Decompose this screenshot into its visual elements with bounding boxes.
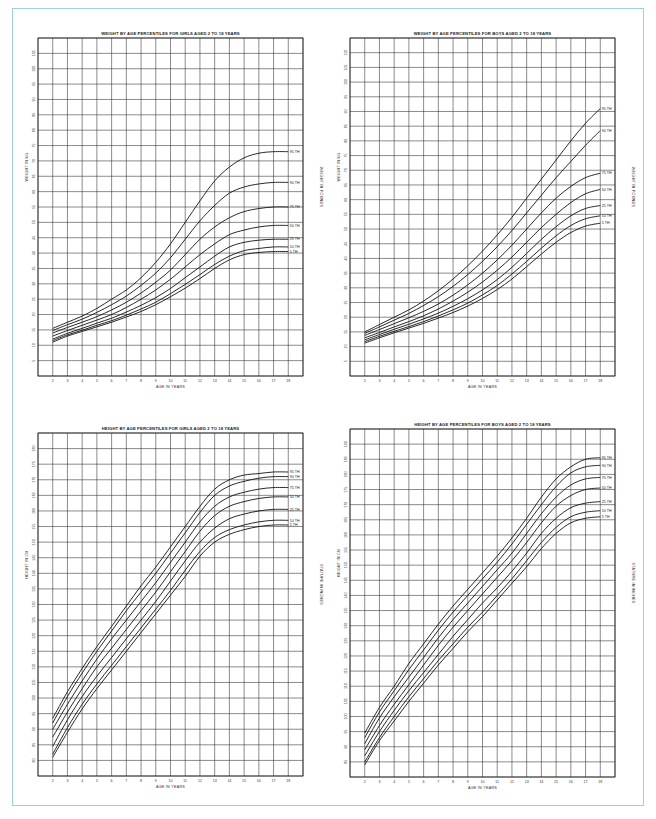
y-axis-label-right: WEIGHT IN POUNDS <box>631 167 635 208</box>
y-tick-label: 135 <box>344 608 348 614</box>
y-tick-label: 105 <box>344 64 348 70</box>
percentile-label: 5 TH <box>602 515 610 519</box>
y-tick-label: 145 <box>344 577 348 583</box>
x-tick-label: 6 <box>111 779 113 783</box>
x-tick-label: 3 <box>66 379 68 383</box>
x-tick-label: 3 <box>66 779 68 783</box>
y-tick-label: 30 <box>32 282 36 286</box>
y-axis-label-right: STATURE IN INCHES <box>319 564 323 605</box>
y-tick-label: 25 <box>344 301 348 305</box>
x-tick-label: 18 <box>286 779 290 783</box>
y-axis-label-right: WEIGHT IN POUNDS <box>319 167 323 208</box>
x-tick-label: 8 <box>140 779 142 783</box>
percentile-label: 50 TH <box>290 495 300 499</box>
x-tick-label: 3 <box>378 780 380 784</box>
y-tick-label: 155 <box>344 547 348 553</box>
percentile-label: 90 TH <box>602 129 612 133</box>
x-tick-label: 16 <box>257 779 261 783</box>
x-tick-label: 9 <box>467 379 469 383</box>
y-tick-label: 50 <box>32 220 36 224</box>
x-axis-label: AGE IN YEARS <box>156 385 185 389</box>
y-axis-label: HEIGHT IN CM <box>337 549 341 578</box>
y-tick-label: 105 <box>344 698 348 704</box>
percentile-label: 25 TH <box>602 204 612 208</box>
chart-title: HEIGHT BY AGE PERCENTILES FOR BOYS AGED … <box>414 422 551 427</box>
y-tick-label: 90 <box>32 727 36 731</box>
y-tick-label: 160 <box>344 532 348 538</box>
y-tick-label: 110 <box>344 683 348 689</box>
y-tick-label: 95 <box>32 712 36 716</box>
chart-title: WEIGHT BY AGE PERCENTILES FOR BOYS AGED … <box>414 31 551 36</box>
x-tick-label: 9 <box>467 780 469 784</box>
y-tick-label: 110 <box>32 664 36 670</box>
y-tick-label: 100 <box>344 713 348 719</box>
y-tick-label: 15 <box>32 328 36 332</box>
y-tick-label: 10 <box>344 345 348 349</box>
y-tick-label: 110 <box>344 50 348 56</box>
y-tick-label: 35 <box>32 266 36 270</box>
x-tick-label: 8 <box>452 379 454 383</box>
x-tick-label: 5 <box>408 379 410 383</box>
x-tick-label: 14 <box>539 780 543 784</box>
x-tick-label: 13 <box>213 779 217 783</box>
y-tick-label: 95 <box>344 730 348 734</box>
y-tick-label: 145 <box>32 555 36 561</box>
x-tick-label: 14 <box>227 379 231 383</box>
y-tick-label: 95 <box>344 95 348 99</box>
x-tick-label: 5 <box>96 379 98 383</box>
y-tick-label: 140 <box>344 592 348 598</box>
y-tick-label: 155 <box>32 524 36 530</box>
x-tick-label: 11 <box>183 379 187 383</box>
y-tick-label: 35 <box>344 271 348 275</box>
x-tick-label: 18 <box>598 780 602 784</box>
chart-girls-height: HEIGHT BY AGE PERCENTILES FOR GIRLS AGED… <box>20 423 325 798</box>
percentile-label: 95 TH <box>602 107 612 111</box>
y-tick-label: 20 <box>32 313 36 317</box>
x-tick-label: 8 <box>452 780 454 784</box>
y-tick-label: 120 <box>32 633 36 639</box>
y-tick-label: 90 <box>344 745 348 749</box>
x-tick-label: 17 <box>584 379 588 383</box>
y-tick-label: 5 <box>344 360 348 362</box>
percentile-label: 90 TH <box>290 475 300 479</box>
y-tick-label: 170 <box>32 477 36 483</box>
girls_weight-svg: WEIGHT BY AGE PERCENTILES FOR GIRLS AGED… <box>20 28 325 398</box>
y-tick-label: 170 <box>344 502 348 508</box>
percentile-label: 5 TH <box>290 523 298 527</box>
x-tick-label: 2 <box>364 379 366 383</box>
chart-title: WEIGHT BY AGE PERCENTILES FOR GIRLS AGED… <box>101 31 240 36</box>
y-tick-label: 160 <box>32 508 36 514</box>
x-tick-label: 16 <box>257 379 261 383</box>
x-tick-label: 6 <box>111 379 113 383</box>
y-tick-label: 175 <box>344 487 348 493</box>
percentile-label: 95 TH <box>290 150 300 154</box>
y-tick-label: 165 <box>344 517 348 523</box>
y-axis-label-right: STATURE IN INCHES <box>631 563 635 604</box>
chart-girls-weight: WEIGHT BY AGE PERCENTILES FOR GIRLS AGED… <box>20 28 325 398</box>
x-tick-label: 9 <box>155 779 157 783</box>
x-axis-label: AGE IN YEARS <box>468 786 497 790</box>
percentile-label: 50 TH <box>290 224 300 228</box>
x-tick-label: 15 <box>242 379 246 383</box>
y-tick-label: 90 <box>344 109 348 113</box>
percentile-label: 10 TH <box>290 245 300 249</box>
y-tick-label: 65 <box>344 183 348 187</box>
y-tick-label: 25 <box>32 297 36 301</box>
x-tick-label: 18 <box>598 379 602 383</box>
x-tick-label: 5 <box>408 780 410 784</box>
y-tick-label: 185 <box>344 456 348 462</box>
y-tick-label: 100 <box>32 66 36 72</box>
x-tick-label: 11 <box>495 379 499 383</box>
y-tick-label: 135 <box>32 586 36 592</box>
x-axis-label: AGE IN YEARS <box>156 785 185 789</box>
x-tick-label: 2 <box>364 780 366 784</box>
y-tick-label: 70 <box>32 159 36 163</box>
x-tick-label: 17 <box>272 779 276 783</box>
y-axis-label: HEIGHT IN CM <box>25 550 29 579</box>
x-tick-label: 13 <box>213 379 217 383</box>
x-tick-label: 7 <box>437 780 439 784</box>
y-tick-label: 15 <box>344 330 348 334</box>
x-tick-label: 12 <box>510 780 514 784</box>
y-tick-label: 105 <box>32 679 36 685</box>
percentile-label: 10 TH <box>290 519 300 523</box>
